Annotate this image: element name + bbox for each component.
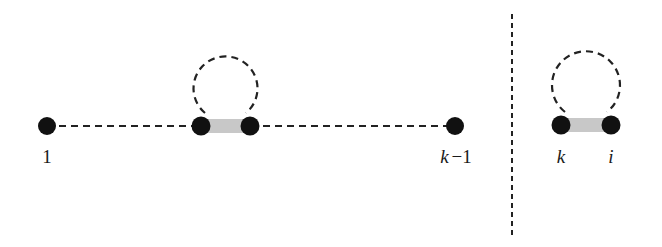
- label-k-var: k: [440, 146, 449, 167]
- label-minus-one: −1: [452, 146, 472, 167]
- node-1: [38, 117, 56, 135]
- right-loop-arc: [552, 51, 620, 112]
- label-1: 1: [42, 146, 52, 167]
- node-k: [552, 116, 571, 135]
- node-bond-right: [241, 117, 260, 136]
- node-k-minus-1: [446, 117, 464, 135]
- label-k: k: [557, 146, 566, 167]
- left-loop-arc: [194, 56, 258, 113]
- diagram-canvas: 1 k−1 k i: [0, 0, 662, 247]
- right-panel: k i: [552, 51, 621, 167]
- node-bond-left: [192, 117, 211, 136]
- label-i: i: [608, 146, 613, 167]
- left-panel: 1 k−1: [38, 56, 472, 167]
- label-k-minus-1: k−1: [440, 146, 472, 167]
- node-i: [602, 116, 621, 135]
